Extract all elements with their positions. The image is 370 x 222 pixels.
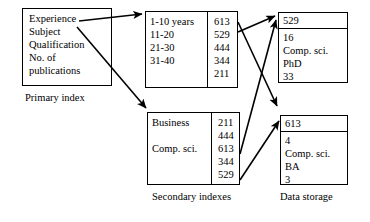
data-record-field: BA bbox=[285, 160, 330, 173]
secondary-index-key: 31-40 bbox=[150, 54, 194, 67]
data-record-field: 4 bbox=[285, 134, 330, 147]
secondary-index-pointer: 211 bbox=[218, 116, 234, 129]
secondary-index-subject-keys: Business Comp. sci. bbox=[152, 116, 197, 181]
data-record-field: Comp. sci. bbox=[285, 147, 330, 160]
secondary-index-subject-pointers: 211 444 613 344 529 bbox=[218, 116, 234, 181]
arrow-subject-613-to-record-529 bbox=[240, 20, 276, 154]
data-storage-caption: Data storage bbox=[280, 190, 333, 203]
data-record-field: 3 bbox=[285, 173, 330, 186]
secondary-index-pointer: 613 bbox=[214, 15, 230, 28]
secondary-index-experience-divider bbox=[207, 11, 208, 88]
data-record-613-fields: 4 Comp. sci. BA 3 bbox=[285, 134, 330, 186]
secondary-index-subject-divider bbox=[211, 112, 212, 185]
primary-index-field: Subject bbox=[29, 25, 84, 38]
secondary-index-key: Comp. sci. bbox=[152, 142, 197, 155]
data-record-field: PhD bbox=[283, 57, 328, 70]
secondary-index-pointer: 444 bbox=[218, 129, 234, 142]
secondary-index-pointer: 529 bbox=[218, 168, 234, 181]
arrow-experience-529-to-record-529 bbox=[238, 16, 275, 32]
secondary-index-key: 1-10 years bbox=[150, 15, 194, 28]
data-record-field: 33 bbox=[283, 70, 328, 83]
primary-index-field-list: Experience Subject Qualification No. of … bbox=[29, 12, 84, 77]
data-record-529-fields: 16 Comp. sci. PhD 33 bbox=[283, 31, 328, 83]
diagram-canvas: Experience Subject Qualification No. of … bbox=[0, 0, 370, 222]
data-record-529-header-divider bbox=[278, 28, 348, 29]
primary-index-field: publications bbox=[29, 64, 84, 77]
arrow-experience-613-to-record-613 bbox=[238, 22, 277, 106]
arrow-subject-529-to-record-613 bbox=[240, 121, 279, 180]
secondary-index-pointer: 211 bbox=[214, 67, 230, 80]
primary-index-field: Qualification bbox=[29, 38, 84, 51]
secondary-index-key bbox=[152, 155, 197, 168]
secondary-index-key bbox=[152, 129, 197, 142]
primary-index-caption: Primary index bbox=[25, 91, 85, 104]
data-record-613-header-divider bbox=[280, 131, 348, 132]
secondary-index-key: 21-30 bbox=[150, 41, 194, 54]
secondary-index-key bbox=[150, 67, 194, 80]
data-record-field: Comp. sci. bbox=[283, 44, 328, 57]
primary-index-field: No. of bbox=[29, 51, 84, 64]
secondary-index-pointer: 444 bbox=[214, 41, 230, 54]
data-record-field: 16 bbox=[283, 31, 328, 44]
data-record-613-id: 613 bbox=[285, 117, 301, 130]
data-record-529-id: 529 bbox=[283, 14, 299, 27]
secondary-index-pointer: 613 bbox=[218, 142, 234, 155]
secondary-index-key: Business bbox=[152, 116, 197, 129]
secondary-indexes-caption: Secondary indexes bbox=[152, 190, 231, 203]
secondary-index-pointer: 529 bbox=[214, 28, 230, 41]
primary-index-field: Experience bbox=[29, 12, 84, 25]
secondary-index-key bbox=[152, 168, 197, 181]
secondary-index-pointer: 344 bbox=[218, 155, 234, 168]
secondary-index-experience-keys: 1-10 years 11-20 21-30 31-40 bbox=[150, 15, 194, 80]
secondary-index-pointer: 344 bbox=[214, 54, 230, 67]
secondary-index-key: 11-20 bbox=[150, 28, 194, 41]
secondary-index-experience-pointers: 613 529 444 344 211 bbox=[214, 15, 230, 80]
